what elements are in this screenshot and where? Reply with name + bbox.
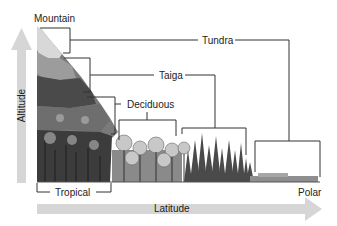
label-tropical: Tropical <box>53 187 92 198</box>
label-polar: Polar <box>298 187 321 198</box>
diagram-canvas <box>0 0 337 226</box>
axis-label-altitude: Altitude <box>16 83 27 129</box>
mountain-vegetation <box>37 27 118 182</box>
label-mountain: Mountain <box>34 13 75 24</box>
deciduous-trees <box>112 135 190 182</box>
label-deciduous: Deciduous <box>125 99 176 110</box>
taiga-conifers <box>184 133 254 182</box>
label-taiga: Taiga <box>157 70 185 81</box>
label-tundra: Tundra <box>200 35 235 46</box>
axis-label-latitude: Latitude <box>154 203 190 214</box>
